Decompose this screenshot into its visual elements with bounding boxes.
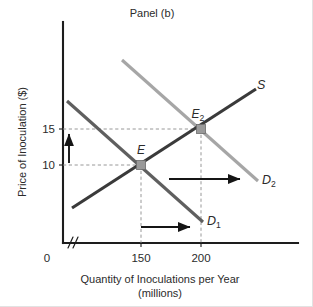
y-tick-label-15: 15 — [42, 123, 55, 135]
economics-supply-demand-chart: Panel (b) Price of Inoculation ($) 15 10… — [0, 0, 313, 307]
equilibrium-label-e2-sub: 2 — [200, 113, 205, 123]
x-axis-label-units: (millions) — [138, 287, 182, 299]
equilibrium-label-e: E — [137, 143, 146, 157]
figure-card: Panel (b) Price of Inoculation ($) 15 10… — [0, 0, 313, 307]
x-tick-label-150: 150 — [131, 252, 150, 264]
x-tick-label-200: 200 — [191, 252, 210, 264]
x-tick-label-0: 0 — [44, 252, 50, 264]
x-axis-label: Quantity of Inoculations per Year — [81, 273, 240, 285]
curve-label-demand-2-base: D — [262, 173, 271, 187]
y-axis-label: Price of Inoculation ($) — [16, 87, 28, 197]
equilibrium-marker-e2 — [197, 125, 206, 134]
panel-title: Panel (b) — [130, 7, 175, 19]
curve-label-demand-2: D2 — [262, 173, 276, 189]
curve-demand-1 — [67, 101, 203, 222]
curve-label-demand-2-sub: 2 — [271, 179, 276, 189]
curve-label-demand-1-sub: 1 — [216, 220, 221, 230]
curve-label-supply: S — [257, 78, 266, 92]
equilibrium-label-e2: E2 — [192, 107, 205, 123]
curve-label-demand-1: D1 — [207, 214, 221, 230]
y-tick-label-10: 10 — [42, 159, 55, 171]
curve-label-demand-1-base: D — [207, 214, 216, 228]
equilibrium-marker-e — [137, 161, 146, 170]
curve-supply — [72, 89, 256, 208]
